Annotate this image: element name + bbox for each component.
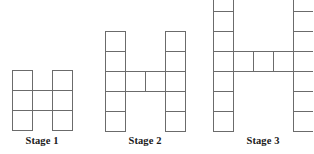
unit-square <box>294 32 314 52</box>
pattern-sequence-figure: Stage 1Stage 2Stage 3 <box>0 0 313 154</box>
stage-label-1: Stage 1 <box>12 135 72 146</box>
unit-square <box>166 92 186 112</box>
stage-label-3: Stage 3 <box>213 135 313 146</box>
unit-square <box>53 111 73 131</box>
unit-square <box>294 92 314 112</box>
unit-square <box>294 0 314 12</box>
stage-label-2: Stage 2 <box>105 135 185 146</box>
unit-square <box>13 111 33 131</box>
unit-square <box>166 72 186 92</box>
unit-square <box>13 91 33 111</box>
unit-square <box>126 72 146 92</box>
unit-square <box>214 52 234 72</box>
unit-square <box>294 52 314 72</box>
unit-square <box>274 52 294 72</box>
unit-square <box>33 91 53 111</box>
unit-square <box>106 72 126 92</box>
unit-square <box>214 0 234 12</box>
stage-squares-2 <box>105 31 187 133</box>
unit-square <box>214 112 234 132</box>
unit-square <box>294 112 314 132</box>
unit-square <box>53 71 73 91</box>
unit-square <box>106 52 126 72</box>
unit-square <box>214 32 234 52</box>
stage-squares-1 <box>12 70 74 132</box>
unit-square <box>106 112 126 132</box>
unit-square <box>166 32 186 52</box>
unit-square <box>166 112 186 132</box>
unit-square <box>234 52 254 72</box>
unit-square <box>214 92 234 112</box>
stage-squares-3 <box>213 0 313 133</box>
unit-square <box>146 72 166 92</box>
unit-square <box>13 71 33 91</box>
unit-square <box>294 12 314 32</box>
unit-square <box>106 32 126 52</box>
unit-square <box>53 91 73 111</box>
unit-square <box>214 72 234 92</box>
stage-figure-3 <box>213 0 313 131</box>
stage-figure-1 <box>12 70 72 130</box>
unit-square <box>294 72 314 92</box>
unit-square <box>106 92 126 112</box>
stage-figure-2 <box>105 31 185 131</box>
unit-square <box>166 52 186 72</box>
unit-square <box>214 12 234 32</box>
unit-square <box>254 52 274 72</box>
